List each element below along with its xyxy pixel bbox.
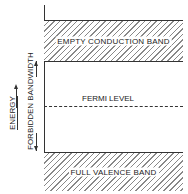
fermi-level-line — [44, 106, 183, 107]
energy-axis-label: ENERGY — [8, 96, 18, 130]
conduction-band: EMPTY CONDUCTION BAND — [44, 20, 183, 62]
band-diagram: EMPTY CONDUCTION BAND FERMI LEVEL FULL V… — [0, 0, 188, 194]
fermi-level-label: FERMI LEVEL — [82, 94, 134, 103]
bandwidth-arrow-down-icon — [36, 133, 37, 151]
bandwidth-arrow-up-icon — [36, 61, 37, 77]
valence-band-label: FULL VALENCE BAND — [68, 168, 158, 177]
forbidden-bandwidth-label: FORBIDDEN BANDWIDTH — [26, 52, 35, 150]
valence-band: FULL VALENCE BAND — [44, 152, 183, 191]
conduction-band-label: EMPTY CONDUCTION BAND — [55, 37, 172, 46]
